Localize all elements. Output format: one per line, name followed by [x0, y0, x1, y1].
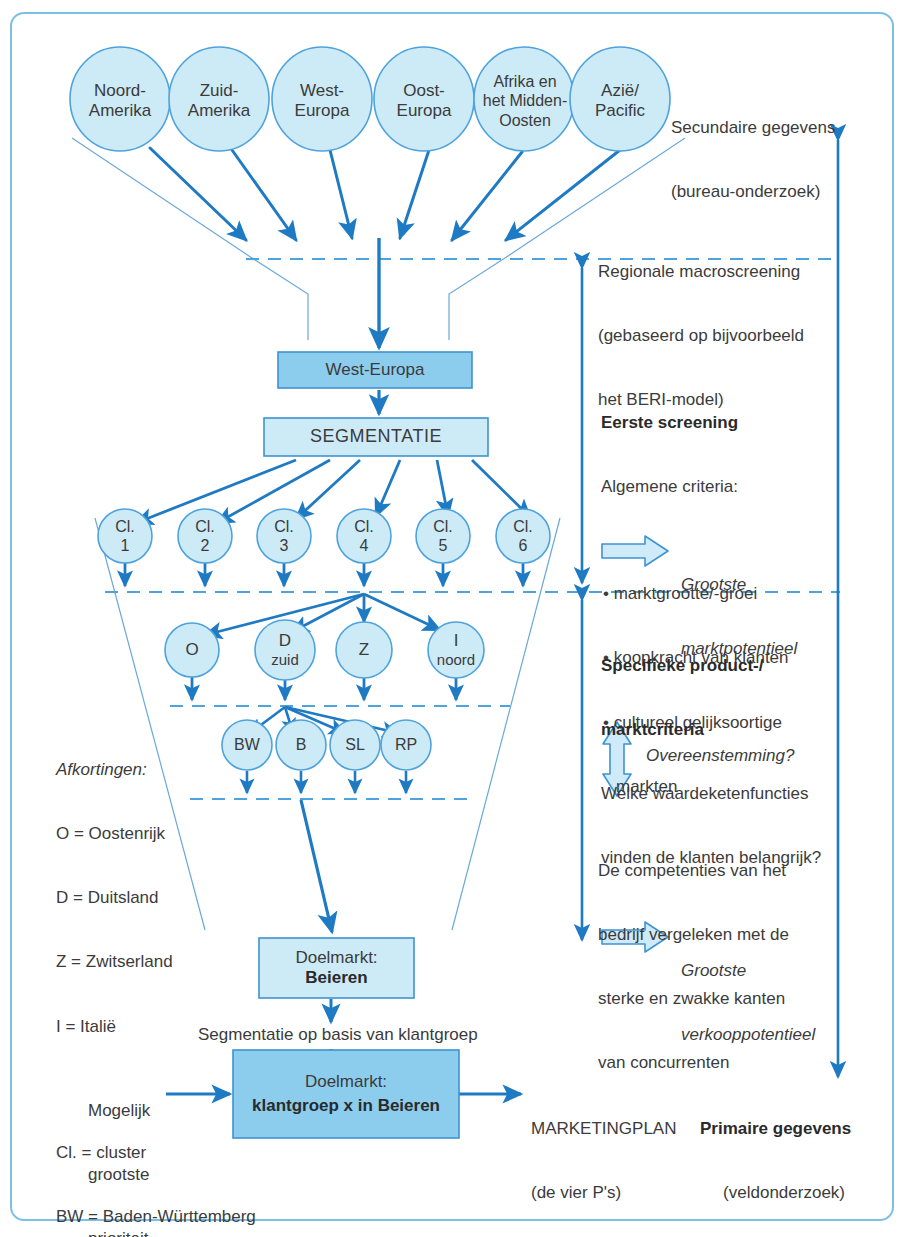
- region-label-line1: West-: [300, 81, 344, 101]
- cluster-cl3[interactable]: Cl. 3: [254, 514, 314, 558]
- marketingplan-note: MARKETINGPLAN (de vier P's): [531, 1075, 676, 1237]
- legend-abbreviations: Afkortingen: O = Oostenrijk D = Duitslan…: [56, 716, 256, 1237]
- competenties-line1: De competenties van het: [598, 860, 789, 881]
- doelmarkt-2-line1: Doelmarkt:: [305, 1072, 387, 1092]
- doelmarkt-1-line1: Doelmarkt:: [295, 948, 377, 968]
- country-label-line2: noord: [437, 651, 475, 669]
- specifieke-head-line1: Specifieke product-/: [601, 655, 821, 676]
- region-label-line1: Oost-: [403, 81, 445, 101]
- primaire-line2: (veldonderzoek): [700, 1182, 845, 1203]
- box-doelmarkt-klantgroep[interactable]: Doelmarkt: klantgroep x in Beieren: [233, 1050, 459, 1138]
- cluster-label-line2: 4: [360, 536, 369, 555]
- primaire-line1: Primaire gegevens: [700, 1118, 845, 1139]
- grootste-verkoop-line1: Grootste: [681, 960, 815, 981]
- legend-item: Z = Zwitserland: [56, 951, 256, 972]
- marketingplan-line2: (de vier P's): [531, 1182, 676, 1203]
- regionale-line1: Regionale macroscreening: [598, 261, 804, 282]
- mogelijk-line2: grootste: [88, 1164, 150, 1185]
- diagram-canvas: Noord- Amerika Zuid- Amerika West- Europ…: [0, 0, 906, 1237]
- cluster-cl1[interactable]: Cl. 1: [95, 514, 155, 558]
- bundesland-label: RP: [395, 735, 417, 754]
- cluster-label-line2: 5: [439, 536, 448, 555]
- region-azie-pacific[interactable]: Azië/ Pacific: [570, 73, 670, 129]
- bundesland-sl[interactable]: SL: [327, 732, 383, 758]
- region-oost-europa[interactable]: Oost- Europa: [374, 73, 474, 129]
- doelmarkt-1-line2: Beieren: [305, 968, 367, 988]
- cluster-label-line1: Cl.: [513, 517, 533, 536]
- region-label-line2: Amerika: [188, 101, 250, 121]
- cluster-label-line2: 2: [201, 536, 210, 555]
- overeenstemming-note: Overeenstemming?: [646, 745, 794, 766]
- primaire-gegevens-note: Primaire gegevens (veldonderzoek): [700, 1075, 845, 1237]
- cluster-label-line1: Cl.: [115, 517, 135, 536]
- bundesland-label: B: [296, 735, 307, 754]
- secundaire-line1: Secundaire gegevens: [671, 117, 835, 138]
- region-label-line1: Afrika en: [493, 72, 556, 91]
- country-label-line1: I: [454, 631, 459, 651]
- grootste-markt-line1: Grootste: [681, 574, 797, 595]
- bundesland-rp[interactable]: RP: [378, 732, 434, 758]
- legend-item: Cl. = cluster: [56, 1142, 256, 1163]
- legend-item: O = Oostenrijk: [56, 823, 256, 844]
- region-label-line1: Azië/: [601, 81, 639, 101]
- bundesland-label: SL: [345, 735, 365, 754]
- cluster-cl2[interactable]: Cl. 2: [175, 514, 235, 558]
- country-label-line2: zuid: [271, 651, 299, 669]
- region-label-line2: Pacific: [595, 101, 645, 121]
- region-label-line2: Europa: [295, 101, 350, 121]
- box-west-europa[interactable]: West-Europa: [278, 352, 472, 388]
- country-italie-noord[interactable]: I noord: [426, 628, 486, 672]
- country-label-line1: O: [185, 640, 198, 660]
- grootste-verkoop-line2: verkooppotentieel: [681, 1024, 815, 1045]
- secundaire-line2: (bureau-onderzoek): [671, 181, 835, 202]
- marketingplan-line1: MARKETINGPLAN: [531, 1118, 676, 1139]
- country-label-line1: D: [279, 631, 291, 651]
- legend-item: BW = Baden-Württemberg: [56, 1206, 256, 1227]
- legend-item: D = Duitsland: [56, 887, 256, 908]
- bundesland-b[interactable]: B: [273, 732, 329, 758]
- grootste-verkooppotentieel-note: Grootste verkooppotentieel: [681, 917, 815, 1088]
- cluster-label-line1: Cl.: [433, 517, 453, 536]
- cluster-label-line1: Cl.: [274, 517, 294, 536]
- region-label-line2: Europa: [397, 101, 452, 121]
- cluster-cl6[interactable]: Cl. 6: [493, 514, 553, 558]
- region-label-line2: het Midden-: [483, 91, 568, 110]
- region-afrika-midden-oosten[interactable]: Afrika en het Midden- Oosten: [470, 64, 580, 138]
- mogelijk-prioriteit-note: Mogelijk grootste prioriteit: [88, 1057, 150, 1237]
- doelmarkt-2-line2: klantgroep x in Beieren: [252, 1096, 440, 1116]
- region-west-europa[interactable]: West- Europa: [272, 73, 372, 129]
- box-segmentatie[interactable]: SEGMENTATIE: [264, 418, 488, 456]
- cluster-label-line1: Cl.: [354, 517, 374, 536]
- region-zuid-amerika[interactable]: Zuid- Amerika: [169, 73, 269, 129]
- eerste-screening-heading: Eerste screening: [601, 412, 789, 433]
- region-label-line1: Zuid-: [200, 81, 239, 101]
- cluster-label-line1: Cl.: [195, 517, 215, 536]
- box-doelmarkt-beieren[interactable]: Doelmarkt: Beieren: [259, 938, 414, 998]
- box-segmentatie-label: SEGMENTATIE: [310, 426, 442, 448]
- region-noord-amerika[interactable]: Noord- Amerika: [70, 73, 170, 129]
- mogelijk-line3: prioriteit: [88, 1228, 150, 1237]
- cluster-label-line2: 6: [519, 536, 528, 555]
- segmentatie-klantgroep-label: Segmentatie op basis van klantgroep: [198, 1024, 478, 1045]
- box-west-europa-label: West-Europa: [326, 360, 425, 380]
- mogelijk-line1: Mogelijk: [88, 1100, 150, 1121]
- legend-heading: Afkortingen:: [56, 759, 256, 780]
- region-label-line2: Amerika: [89, 101, 151, 121]
- region-label-line1: Noord-: [94, 81, 146, 101]
- regionale-line2: (gebaseerd op bijvoorbeeld: [598, 325, 804, 346]
- country-label-line1: Z: [359, 640, 369, 660]
- country-zwitserland[interactable]: Z: [334, 636, 394, 664]
- country-duitsland-zuid[interactable]: D zuid: [255, 628, 315, 672]
- cluster-cl5[interactable]: Cl. 5: [413, 514, 473, 558]
- cluster-cl4[interactable]: Cl. 4: [334, 514, 394, 558]
- specifieke-body-line1: Welke waardeketenfuncties: [601, 783, 821, 804]
- eerste-screening-subtitle: Algemene criteria:: [601, 476, 789, 497]
- cluster-label-line2: 3: [280, 536, 289, 555]
- cluster-label-line2: 1: [121, 536, 130, 555]
- country-oostenrijk[interactable]: O: [162, 636, 222, 664]
- specifieke-head-line2: marktcriteria: [601, 719, 821, 740]
- region-label-line3: Oosten: [499, 111, 551, 130]
